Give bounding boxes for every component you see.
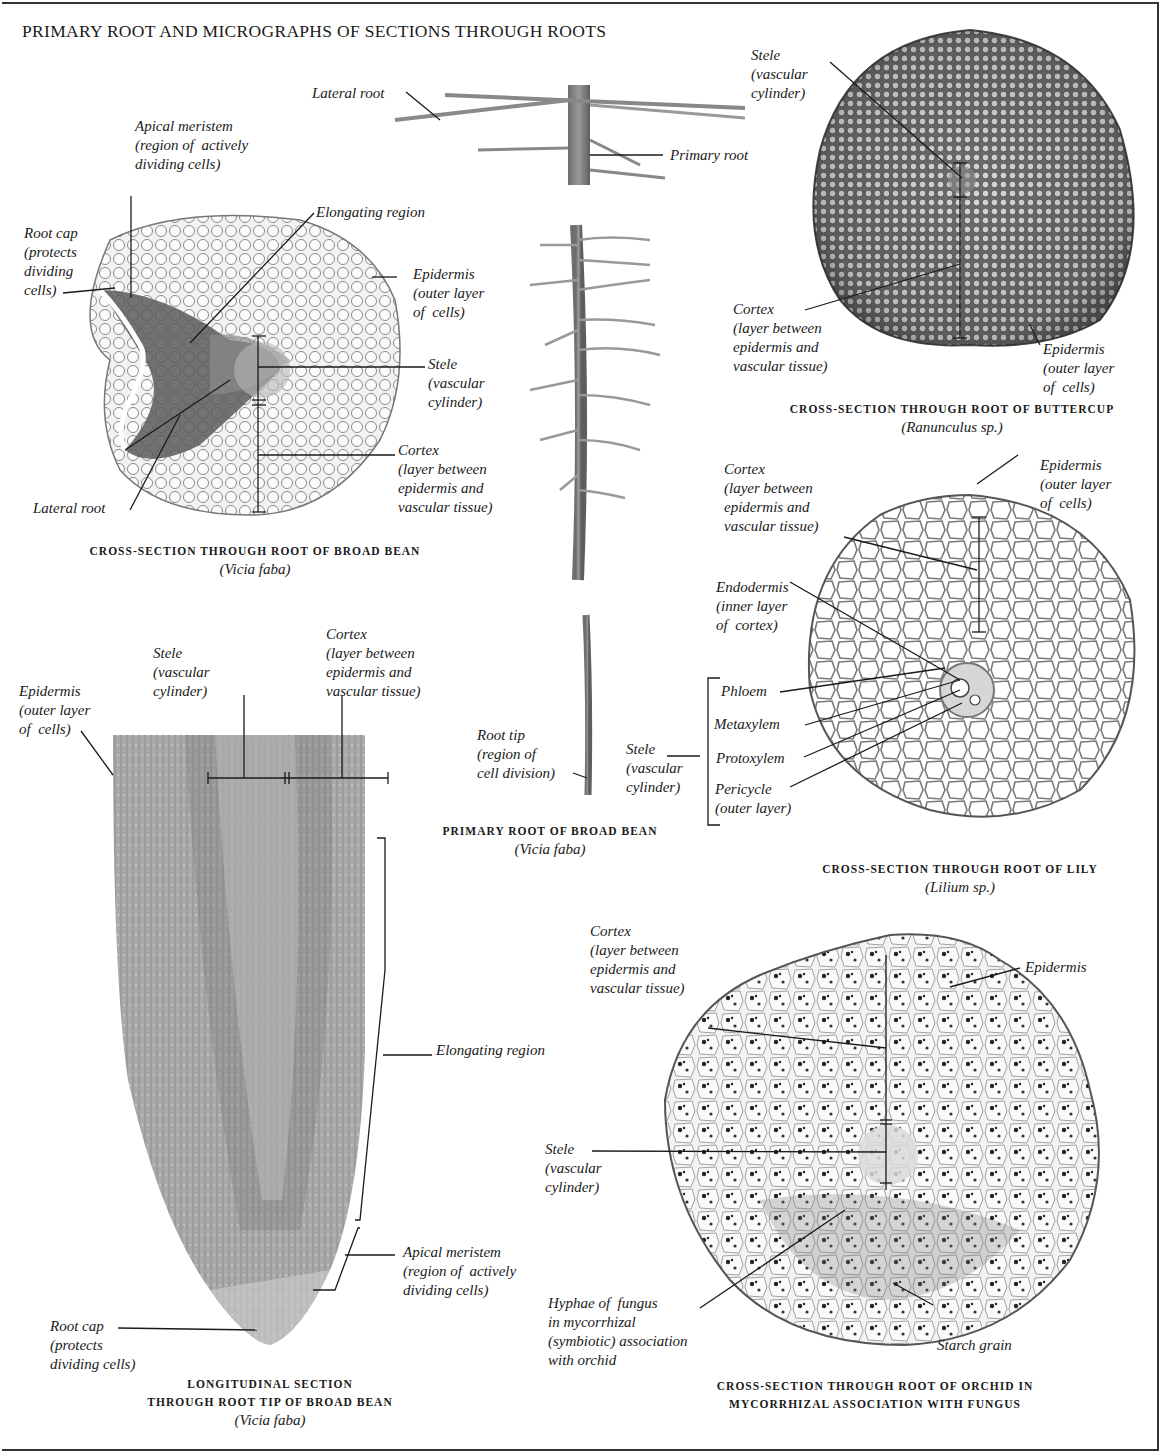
long-caption-line2: THROUGH ROOT TIP OF BROAD BEAN [70, 1393, 470, 1411]
lily-caption: CROSS-SECTION THROUGH ROOT OF LILY (Lili… [760, 860, 1160, 897]
bean-cross-caption: CROSS-SECTION THROUGH ROOT OF BROAD BEAN… [55, 542, 455, 579]
orchid-epidermis-label: Epidermis [1025, 958, 1087, 977]
long-cortex-label: Cortex (layer between epidermis and vasc… [326, 625, 421, 701]
orchid-cortex-label: Cortex (layer between epidermis and vasc… [590, 922, 685, 998]
lily-endodermis-label: Endodermis (inner layer of cortex) [716, 578, 789, 635]
bean-cross-stele-label: Stele (vascular cylinder) [428, 355, 485, 412]
broad-bean-cross-section-image [90, 216, 400, 516]
long-epidermis-label: Epidermis (outer layer of cells) [19, 682, 90, 739]
lily-metaxylem-label: Metaxylem [714, 715, 780, 734]
lily-pericycle-label: Pericycle (outer layer) [715, 780, 791, 818]
long-root-cap-label: Root cap (protects dividing cells) [50, 1317, 135, 1374]
buttercup-species: (Ranunculus sp.) [752, 418, 1152, 437]
orchid-caption-line2: MYCORRHIZAL ASSOCIATION WITH FUNGUS [640, 1395, 1110, 1413]
primary-lateral-root-label: Lateral root [312, 84, 384, 103]
orchid-caption: CROSS-SECTION THROUGH ROOT OF ORCHID IN … [640, 1377, 1110, 1413]
buttercup-caption-title: CROSS-SECTION THROUGH ROOT OF BUTTERCUP [790, 403, 1114, 415]
primary-root-species: (Vicia faba) [400, 840, 700, 859]
long-elongating-region-label: Elongating region [436, 1041, 545, 1060]
orchid-cross-section-image [665, 934, 1099, 1345]
longitudinal-section-image [113, 735, 365, 1345]
buttercup-epidermis-label: Epidermis (outer layer of cells) [1043, 340, 1114, 397]
orchid-starch-grain-label: Starch grain [937, 1336, 1012, 1355]
primary-root-caption: PRIMARY ROOT OF BROAD BEAN (Vicia faba) [400, 822, 700, 859]
primary-root-image [395, 85, 745, 795]
lily-cross-section-image [809, 495, 1135, 817]
long-stele-label: Stele (vascular cylinder) [153, 644, 210, 701]
specimen-illustrations [0, 0, 1163, 1456]
buttercup-cortex-label: Cortex (layer between epidermis and vasc… [733, 300, 828, 376]
lily-stele-label: Stele (vascular cylinder) [626, 740, 683, 797]
long-caption-line1: LONGITUDINAL SECTION [70, 1375, 470, 1393]
long-species: (Vicia faba) [70, 1411, 470, 1430]
bean-cross-elongating-region-label: Elongating region [316, 203, 425, 222]
lily-species: (Lilium sp.) [760, 878, 1160, 897]
bean-cross-lateral-root-label: Lateral root [33, 499, 105, 518]
bean-cross-epidermis-label: Epidermis (outer layer of cells) [413, 265, 484, 322]
bean-cross-apical-meristem-label: Apical meristem (region of actively divi… [135, 117, 248, 174]
long-apical-meristem-label: Apical meristem (region of actively divi… [403, 1243, 516, 1300]
bean-cross-species: (Vicia faba) [55, 560, 455, 579]
lily-epidermis-label: Epidermis (outer layer of cells) [1040, 456, 1111, 513]
orchid-caption-line1: CROSS-SECTION THROUGH ROOT OF ORCHID IN [640, 1377, 1110, 1395]
long-caption: LONGITUDINAL SECTION THROUGH ROOT TIP OF… [70, 1375, 470, 1430]
lily-phloem-label: Phloem [721, 682, 767, 701]
orchid-hyphae-label: Hyphae of fungus in mycorrhizal (symbiot… [548, 1294, 688, 1370]
primary-root-caption-title: PRIMARY ROOT OF BROAD BEAN [443, 825, 658, 837]
lily-cortex-label: Cortex (layer between epidermis and vasc… [724, 460, 819, 536]
bean-cross-cortex-label: Cortex (layer between epidermis and vasc… [398, 441, 493, 517]
buttercup-cross-section-image [813, 30, 1133, 346]
bean-cross-root-cap-label: Root cap (protects dividing cells) [24, 224, 78, 300]
orchid-stele-label: Stele (vascular cylinder) [545, 1140, 602, 1197]
buttercup-caption: CROSS-SECTION THROUGH ROOT OF BUTTERCUP … [752, 400, 1152, 437]
lily-protoxylem-label: Protoxylem [716, 749, 785, 768]
primary-root-tip-label: Root tip (region of cell division) [477, 726, 555, 783]
bean-cross-caption-title: CROSS-SECTION THROUGH ROOT OF BROAD BEAN [90, 545, 421, 557]
lily-caption-title: CROSS-SECTION THROUGH ROOT OF LILY [822, 863, 1098, 875]
buttercup-stele-label: Stele (vascular cylinder) [751, 46, 808, 103]
primary-root-label: Primary root [670, 146, 748, 165]
